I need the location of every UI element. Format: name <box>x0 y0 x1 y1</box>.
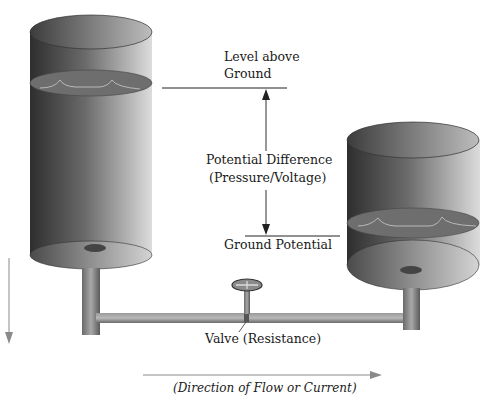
flow-direction-arrow <box>143 371 382 379</box>
left-tank <box>30 15 152 269</box>
level-above-label: Level above <box>224 49 300 64</box>
valve-resistance-label: Valve (Resistance) <box>204 331 321 346</box>
right-drain-hole <box>400 266 422 274</box>
horizontal-pipe <box>96 313 408 323</box>
left-water-surface <box>30 70 152 96</box>
right-vertical-pipe <box>403 288 420 330</box>
left-vertical-pipe <box>82 268 100 335</box>
pressure-voltage-label: (Pressure/Voltage) <box>209 170 326 185</box>
down-arrow-icon <box>5 258 13 344</box>
right-water-surface <box>347 208 479 238</box>
left-drain-hole <box>84 244 106 252</box>
ground-potential-label: Ground Potential <box>224 237 332 252</box>
right-tank <box>347 122 480 290</box>
potential-difference-label: Potential Difference <box>206 152 332 167</box>
ground-label: Ground <box>224 66 272 81</box>
diagram-canvas: Level above Ground Potential Difference … <box>0 0 495 406</box>
water-tank-analogy-diagram: Level above Ground Potential Difference … <box>0 0 495 406</box>
flow-direction-label: (Direction of Flow or Current) <box>173 381 357 395</box>
